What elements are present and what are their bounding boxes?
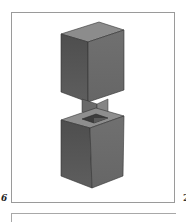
joint-illustration [0, 0, 186, 222]
upper-block [61, 22, 124, 102]
figure-number-label: 6 [1, 193, 7, 203]
lower-block [61, 108, 124, 188]
next-figure-frame [11, 213, 176, 222]
next-figure-label: 2 [183, 193, 186, 203]
